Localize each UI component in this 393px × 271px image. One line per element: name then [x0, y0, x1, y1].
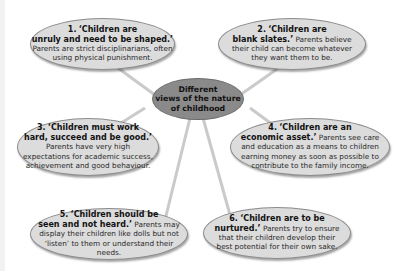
- view-2-title-line2: blank slates.’: [233, 35, 294, 44]
- view-4-title-line1: ‘Children are an: [279, 123, 351, 132]
- view-3-title-line1: ‘Children must work: [48, 123, 139, 132]
- view-6-title-line2: nurtured.’: [215, 224, 261, 233]
- view-6-number: 6.: [229, 214, 238, 223]
- view-5-title-line1: ‘Children should be: [71, 210, 159, 219]
- center-line-3: of childhood: [171, 104, 225, 113]
- view-bubble-5: 5. ‘Children should be seen and not hear…: [30, 208, 188, 260]
- view-1-description: Parents are strict disciplinarians, ofte…: [32, 44, 172, 62]
- view-3-description: Parents have very high expectations for …: [23, 142, 153, 170]
- center-line-1: Different: [178, 85, 217, 94]
- view-1-title-line1: ‘Children are: [79, 25, 137, 34]
- view-2-title-line1: ‘Children are: [268, 25, 326, 34]
- view-6-title-line1: ‘Children are to be: [240, 214, 324, 223]
- connector-5: [165, 118, 190, 220]
- view-5-title-line2: seen and not heard.’: [38, 220, 132, 229]
- view-4-title-line2: economic asset.’: [241, 133, 317, 142]
- view-3-number: 3.: [37, 123, 46, 132]
- view-2-number: 2.: [257, 25, 266, 34]
- view-1-title-line2: unruly and need to be shaped.’: [32, 35, 173, 44]
- view-bubble-6: 6. ‘Children are to be nurtured.’ Parent…: [203, 207, 351, 259]
- center-topic: Different views of the nature of childho…: [152, 78, 244, 120]
- view-bubble-2: 2. ‘Children are blank slates.’ Parents …: [218, 18, 366, 70]
- view-4-number: 4.: [268, 123, 277, 132]
- connector-6: [203, 118, 230, 215]
- view-bubble-3: 3. ‘Children must work hard, succeed and…: [17, 118, 159, 176]
- center-line-2: views of the nature: [155, 94, 241, 103]
- view-5-number: 5.: [60, 210, 69, 219]
- view-3-title-line2: hard, succeed and be good.’: [24, 133, 152, 142]
- view-bubble-4: 4. ‘Children are an economic asset.’ Par…: [230, 118, 390, 176]
- view-1-number: 1.: [68, 25, 77, 34]
- view-bubble-1: 1. ‘Children are unruly and need to be s…: [30, 18, 175, 70]
